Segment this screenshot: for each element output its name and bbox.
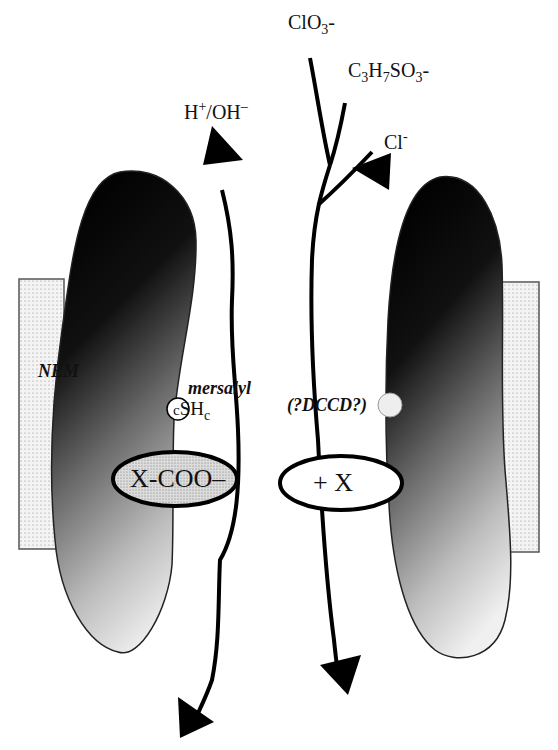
arrow-up-proton-icon <box>203 126 243 165</box>
anion-main-pathway-line <box>311 165 338 680</box>
chlorate-label: ClO3- <box>288 12 335 37</box>
nem-label: NEM <box>38 362 79 380</box>
mersalyl-label: mersalyl <box>188 379 251 397</box>
cysteine-prefix: c <box>173 402 180 418</box>
proton-hydroxide-label: H+/OH– <box>184 100 248 122</box>
dccd-site-circle <box>378 393 402 417</box>
channel-diagram <box>0 0 558 750</box>
carboxylate-site-label: X-COO– <box>130 466 225 492</box>
chlorate-pathway-line <box>310 58 330 165</box>
cysteine-label: cSHc <box>173 399 210 423</box>
dccd-label: (?DCCD?) <box>287 396 367 414</box>
arrow-chloride-icon <box>352 153 391 190</box>
arrow-down-anion-icon <box>320 655 361 695</box>
propanesulfonate-pathway-line <box>330 103 345 165</box>
propanesulfonate-label: C3H7SO3- <box>348 60 429 85</box>
chloride-label: Cl- <box>384 130 408 152</box>
arrow-down-proton-icon <box>178 697 214 738</box>
cationic-site-label: + X <box>313 470 353 496</box>
protein-subunit-right <box>386 177 511 658</box>
